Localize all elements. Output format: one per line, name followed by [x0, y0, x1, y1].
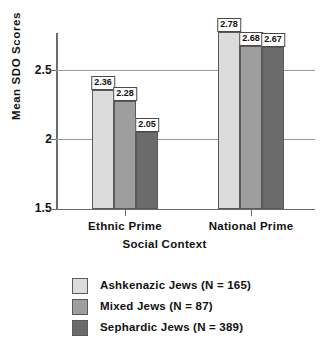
bar-value-label: 2.78: [217, 18, 241, 32]
bar-ethnic-ashkenazic: 2.36: [92, 90, 114, 209]
bar-national-mixed: 2.68: [240, 46, 262, 209]
bar-ethnic-sephardic: 2.05: [136, 132, 158, 209]
bar-group-national-prime: 2.78 2.68 2.67: [218, 33, 284, 209]
bar-national-sephardic: 2.67: [262, 47, 284, 209]
x-category-label-ethnic-prime: Ethnic Prime: [88, 220, 162, 232]
x-tick-mark-national-prime: [251, 210, 252, 216]
bar-value-label: 2.28: [113, 87, 137, 101]
legend-label: Ashkenazic Jews (N = 165): [100, 278, 251, 293]
bar-value-label: 2.67: [261, 33, 285, 47]
legend-item-ashkenazic: Ashkenazic Jews (N = 165): [72, 276, 292, 297]
legend-item-mixed: Mixed Jews (N = 87): [72, 297, 292, 318]
bar-ethnic-mixed: 2.28: [114, 101, 136, 209]
bar-national-ashkenazic: 2.78: [218, 32, 240, 209]
legend-swatch-icon: [72, 278, 88, 294]
legend-label: Sephardic Jews (N = 389): [100, 320, 243, 335]
x-axis-title: Social Context: [0, 238, 329, 250]
x-category-label-national-prime: National Prime: [209, 220, 294, 232]
legend-swatch-icon: [72, 320, 88, 336]
plot-area: 2.36 2.28 2.05 2.78 2.68 2.67: [56, 33, 315, 209]
y-tick-label-2.5: 2.5: [18, 63, 52, 77]
x-axis-line: [56, 209, 315, 210]
y-tick-label-2: 2: [18, 132, 52, 146]
bar-group-ethnic-prime: 2.36 2.28 2.05: [92, 33, 158, 209]
x-tick-mark-ethnic-prime: [125, 210, 126, 216]
legend-swatch-icon: [72, 299, 88, 315]
bar-value-label: 2.68: [239, 32, 263, 46]
legend-item-sephardic: Sephardic Jews (N = 389): [72, 318, 292, 339]
bar-value-label: 2.05: [135, 118, 159, 132]
chart-legend: Ashkenazic Jews (N = 165) Mixed Jews (N …: [72, 276, 292, 339]
bar-chart-figure: Mean SDO Scores 2.5 2 1.5 2.36 2.28 2.05…: [0, 0, 329, 362]
y-tick-label-1.5: 1.5: [18, 201, 52, 215]
legend-label: Mixed Jews (N = 87): [100, 299, 213, 314]
bar-value-label: 2.36: [91, 76, 115, 90]
